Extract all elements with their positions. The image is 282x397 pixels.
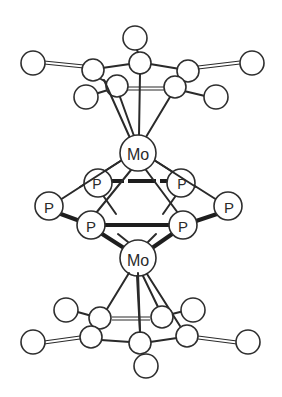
carbon-atom: [129, 332, 151, 354]
methyl-atom: [74, 85, 98, 109]
carbon-atom: [176, 325, 198, 347]
p-label: P: [178, 218, 188, 235]
bottom-cp-back: [54, 298, 205, 329]
carbon-atom: [80, 326, 102, 348]
p-label: P: [224, 199, 234, 216]
carbon-atom: [164, 76, 186, 98]
methyl-atom: [123, 26, 147, 50]
methyl-atom: [134, 354, 158, 378]
methyl-atom: [236, 330, 260, 354]
mo-label: Mo: [127, 252, 149, 269]
mo-bottom-atom: Mo: [120, 240, 156, 276]
p-label: P: [86, 218, 96, 235]
methyl-atom: [21, 330, 45, 354]
methyl-atom: [181, 298, 205, 322]
p-label: P: [44, 199, 54, 216]
mo-top-atom: Mo: [120, 135, 156, 171]
carbon-atom: [151, 306, 173, 328]
bottom-cp-front: [21, 273, 260, 378]
methyl-atom: [21, 51, 45, 75]
methyl-atom: [204, 85, 228, 109]
mo-label: Mo: [127, 146, 149, 163]
carbon-atom: [129, 52, 151, 74]
methyl-atom: [240, 51, 264, 75]
methyl-atom: [54, 298, 78, 322]
molecule-diagram: P P Mo P P P P Mo: [0, 0, 282, 397]
carbon-atom: [82, 59, 104, 81]
